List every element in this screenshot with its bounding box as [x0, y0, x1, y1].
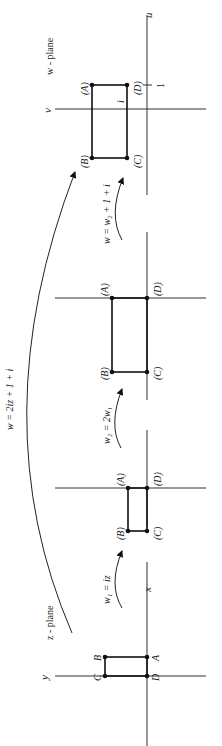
w2-corner-D: (D) — [152, 281, 164, 296]
w2-corner-A: (A) — [99, 283, 111, 296]
w1-rectangle — [128, 488, 147, 531]
w2-corner-B: (B) — [99, 367, 111, 380]
w2-rectangle — [112, 298, 147, 372]
curved-arrow-icon — [115, 551, 122, 608]
transform-w2-2w1: w₂ = 2w₁ — [101, 389, 122, 448]
transform-w1-iz: w₁ = iz — [101, 551, 122, 608]
w-corner-D: (D) — [132, 80, 144, 95]
u-axis-label: u — [142, 12, 154, 18]
x-axis-label: x — [141, 587, 153, 593]
z-corner-B: B — [92, 655, 103, 661]
transform-label-2: w₂ = 2w₁ — [101, 407, 112, 444]
overall-transform: w = 2iz + 1 + i — [4, 172, 75, 633]
curved-arrow-icon — [115, 178, 123, 240]
w1-corner-D: (D) — [152, 471, 164, 486]
v-axis-label: v — [41, 108, 53, 113]
transform-w-shift: w = w₂ + 1 + i — [101, 178, 123, 244]
w1-corner-A: (A) — [115, 473, 127, 486]
w1-plane: (A) (D) (B) (C) — [55, 471, 206, 540]
z-plane: x y z - plane B C A D — [38, 587, 206, 682]
w1-corner-B: (B) — [115, 527, 127, 540]
curved-arrow-icon — [115, 389, 122, 448]
z-corner-A: A — [150, 654, 161, 662]
transform-label-3: w = w₂ + 1 + i — [101, 184, 112, 244]
z-corner-D: D — [150, 673, 161, 682]
tick-label-1: 1 — [155, 83, 166, 88]
transform-label-1: w₁ = iz — [101, 575, 112, 604]
overall-transform-label: w = 2iz + 1 + i — [4, 368, 15, 430]
w2-plane: (A) (D) (B) (C) — [55, 281, 206, 380]
w-rectangle — [92, 85, 127, 158]
w-plane: u v w - plane (A) (D) (B) (C) 1 i — [41, 12, 206, 168]
w-corner-A: (A) — [79, 82, 91, 95]
w2-corner-C: (C) — [152, 366, 164, 380]
wplane-title: w - plane — [44, 37, 55, 75]
complex-mapping-diagram: u v w - plane (A) (D) (B) (C) 1 i (A) (D… — [0, 0, 222, 746]
big-curved-arrow-icon — [27, 172, 75, 633]
w-corner-C: (C) — [132, 154, 144, 168]
w1-corner-C: (C) — [152, 526, 164, 540]
tick-label-i: i — [115, 100, 126, 103]
y-axis-label: y — [38, 675, 50, 681]
z-rectangle — [105, 657, 147, 676]
z-corner-C: C — [92, 674, 103, 681]
w-corner-B: (B) — [79, 155, 91, 168]
zplane-title: z - plane — [44, 605, 55, 640]
